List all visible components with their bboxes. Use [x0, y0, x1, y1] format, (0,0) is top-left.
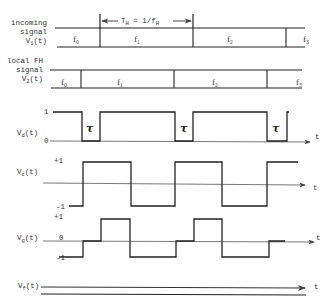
incoming-seg-f3: f3	[303, 34, 309, 45]
tau-label-2: τ	[180, 122, 188, 135]
local-seg-f2: f2	[212, 77, 218, 88]
vg-axis-label: t	[316, 234, 321, 242]
fh-timing-diagram: TH = 1/fH incoming signal V1(t) f0 f1 f2…	[0, 0, 323, 303]
local-var-label: V2(t)	[22, 75, 43, 85]
local-seg-f3: f3	[296, 77, 302, 88]
vg-waveform-row: Vg(t) +1 0 -1 t	[17, 213, 321, 262]
vc-low-label: -1	[56, 203, 66, 211]
vc-var-label: Vc(t)	[17, 168, 38, 178]
vg-high-label: +1	[54, 213, 64, 221]
local-seg-f0: f0	[61, 77, 67, 88]
incoming-seg-f0: f0	[73, 34, 79, 45]
incoming-label-line1: incoming	[11, 19, 47, 27]
vf-axis-label: t	[314, 283, 319, 291]
vc-waveform-row: Vc(t) +1 -1 t	[17, 157, 318, 211]
vf-time-axis	[41, 287, 305, 288]
incoming-seg-f1: f1	[134, 34, 140, 45]
vd-var-label: Vd(t)	[17, 129, 38, 139]
local-fh-signal-row: local FH signal V2(t) f0 f1 f2 f3	[7, 57, 302, 88]
incoming-seg-f2: f2	[227, 34, 233, 45]
vd-axis-label: t	[315, 133, 320, 141]
tau-label-3: τ	[272, 122, 280, 135]
local-label-line2: signal	[16, 66, 44, 74]
incoming-signal-row: incoming signal V1(t) f0 f1 f2 f3	[11, 19, 309, 47]
vf-waveform-row: Vf(t) t	[18, 282, 319, 295]
vf-waveform	[41, 294, 306, 295]
vg-low-label: -1	[56, 254, 66, 262]
incoming-var-label: V1(t)	[26, 37, 47, 47]
local-seg-f1: f1	[117, 77, 123, 88]
vc-axis-label: t	[313, 184, 318, 192]
local-label-line1: local FH	[7, 57, 43, 65]
vg-waveform	[59, 219, 285, 257]
incoming-label-line2: signal	[20, 28, 48, 36]
period-label: TH = 1/fH	[121, 17, 159, 27]
vf-var-label: Vf(t)	[18, 282, 39, 292]
vg-var-label: Vg(t)	[17, 234, 38, 244]
tau-label-1: τ	[86, 122, 94, 135]
period-annotation: TH = 1/fH	[100, 14, 193, 28]
vd-low-label: 0	[44, 137, 49, 145]
vd-high-label: 1	[44, 108, 49, 116]
vc-high-label: +1	[54, 157, 64, 165]
vd-waveform-row: Vd(t) 1 0 t τ τ τ	[17, 108, 320, 145]
vc-time-axis	[43, 183, 305, 185]
